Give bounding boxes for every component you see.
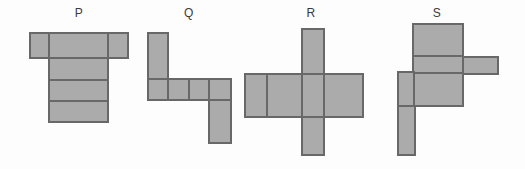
net-S-face-5 bbox=[397, 71, 415, 107]
net-S-face-4 bbox=[412, 72, 464, 107]
net-label-S: S bbox=[433, 7, 442, 20]
nets-figure: PQRS bbox=[0, 0, 525, 169]
net-S-face-1 bbox=[412, 23, 464, 57]
net-S-face-3 bbox=[462, 56, 499, 75]
net-S-face-6 bbox=[397, 105, 416, 156]
net-S: S bbox=[0, 0, 525, 169]
